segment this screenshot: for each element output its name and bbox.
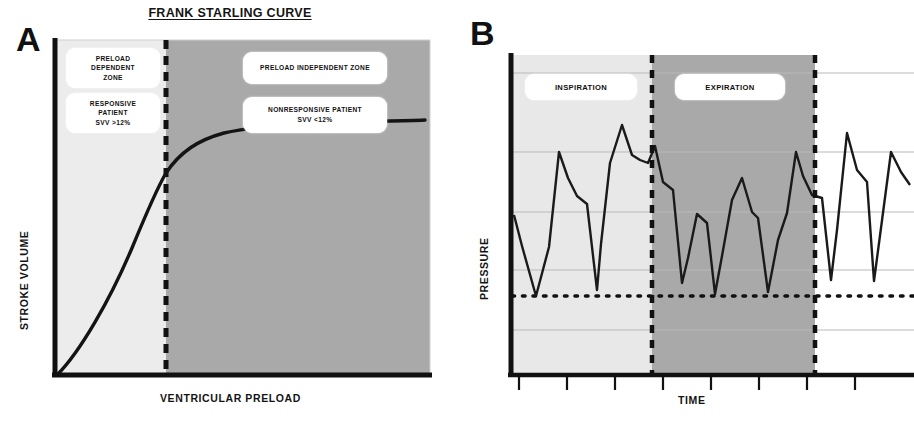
callout-line: SVV <12% bbox=[268, 115, 362, 125]
callout-preload-dependent-zone: PRELOAD DEPENDENT ZONE bbox=[66, 48, 160, 88]
callout-inspiration: INSPIRATION bbox=[525, 74, 637, 100]
zone-preload-independent bbox=[166, 40, 430, 376]
callout-preload-independent-zone: PRELOAD INDEPENDENT ZONE bbox=[243, 52, 387, 84]
callout-line: INSPIRATION bbox=[555, 82, 607, 93]
panel-b-y-axis-label: PRESSURE bbox=[478, 237, 490, 300]
figure-container: A FRANK STARLING CURVE PRELOAD DEPENDENT… bbox=[0, 0, 914, 422]
callout-line: DEPENDENT bbox=[91, 63, 135, 73]
zone-inspiration bbox=[512, 55, 652, 376]
callout-nonresponsive-patient: NONRESPONSIVE PATIENT SVV <12% bbox=[243, 97, 387, 133]
callout-line: PATIENT bbox=[90, 108, 136, 118]
panel-b-pressure-waveform: B bbox=[460, 0, 914, 422]
panel-b-x-ticks bbox=[519, 376, 855, 390]
panel-a-x-axis-label: VENTRICULAR PRELOAD bbox=[160, 392, 301, 404]
callout-line: PRELOAD bbox=[91, 54, 135, 64]
callout-line: EXPIRATION bbox=[705, 82, 754, 93]
panel-a-y-axis-label: STROKE VOLUME bbox=[18, 231, 30, 330]
callout-responsive-patient: RESPONSIVE PATIENT SVV >12% bbox=[66, 93, 160, 133]
panel-a-frank-starling: A FRANK STARLING CURVE PRELOAD DEPENDENT… bbox=[0, 0, 460, 422]
callout-line: PRELOAD INDEPENDENT ZONE bbox=[260, 63, 370, 73]
callout-line: NONRESPONSIVE PATIENT bbox=[268, 105, 362, 115]
panel-b-plot bbox=[460, 0, 914, 422]
callout-line: SVV >12% bbox=[90, 118, 136, 128]
callout-line: RESPONSIVE bbox=[90, 99, 136, 109]
callout-expiration: EXPIRATION bbox=[675, 74, 785, 100]
panel-b-x-axis-label: TIME bbox=[678, 394, 705, 406]
callout-line: ZONE bbox=[91, 73, 135, 83]
